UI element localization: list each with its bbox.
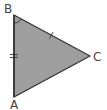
triangle-abc — [14, 15, 90, 97]
vertex-label-b: B — [4, 2, 12, 16]
vertex-label-c: C — [93, 50, 101, 64]
triangle-diagram: B C A — [0, 0, 107, 110]
vertex-label-a: A — [10, 98, 19, 110]
